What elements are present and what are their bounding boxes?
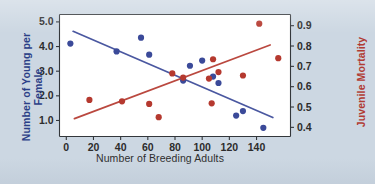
data-point-left (240, 108, 246, 114)
y-axis-left-title: Number of Young per Female (20, 17, 44, 157)
x-axis-tick-label: 80 (169, 141, 181, 153)
y-axis-right-tick-label: 0.9 (297, 19, 312, 31)
data-point-left (215, 80, 221, 86)
y-axis-right-tick-label: 0.5 (297, 101, 312, 113)
data-point-left (146, 52, 152, 58)
data-point-left (187, 63, 193, 69)
y-axis-right-title: Juvenile Mortality (355, 17, 367, 147)
data-point-right (210, 56, 216, 62)
data-point-right (256, 21, 262, 27)
x-axis-title: Number of Breeding Adults (60, 152, 260, 164)
y-axis-right-tick-label: 0.8 (297, 40, 312, 52)
y-axis-right-tick-label: 0.4 (297, 121, 312, 133)
data-point-right (209, 100, 215, 106)
y-axis-right-tick-label: 0.6 (297, 80, 312, 92)
figure-panel: 1.02.03.04.05.00.40.50.60.70.80.90204060… (0, 0, 375, 184)
data-point-right (119, 98, 125, 104)
x-axis-tick-label: 60 (142, 141, 154, 153)
x-axis-tick-label: 40 (115, 141, 127, 153)
data-point-right (206, 75, 212, 81)
x-axis-tick-label: 120 (221, 141, 239, 153)
data-point-left (138, 35, 144, 41)
data-point-right (146, 101, 152, 107)
y-axis-right-tick-label: 0.7 (297, 60, 312, 72)
x-axis-tick-label: 140 (248, 141, 266, 153)
data-point-right (86, 97, 92, 103)
data-point-right (240, 72, 246, 78)
x-axis-tick-label: 20 (88, 141, 100, 153)
data-point-right (215, 69, 221, 75)
data-point-left (113, 48, 119, 54)
data-point-left (67, 40, 73, 46)
data-point-left (199, 57, 205, 63)
data-point-left (233, 112, 239, 118)
data-point-right (156, 114, 162, 120)
x-axis-tick-label: 100 (193, 141, 211, 153)
data-point-left (260, 125, 266, 131)
data-point-right (275, 55, 281, 61)
x-axis-tick-label: 0 (63, 141, 69, 153)
data-point-right (169, 70, 175, 76)
data-point-right (180, 74, 186, 80)
